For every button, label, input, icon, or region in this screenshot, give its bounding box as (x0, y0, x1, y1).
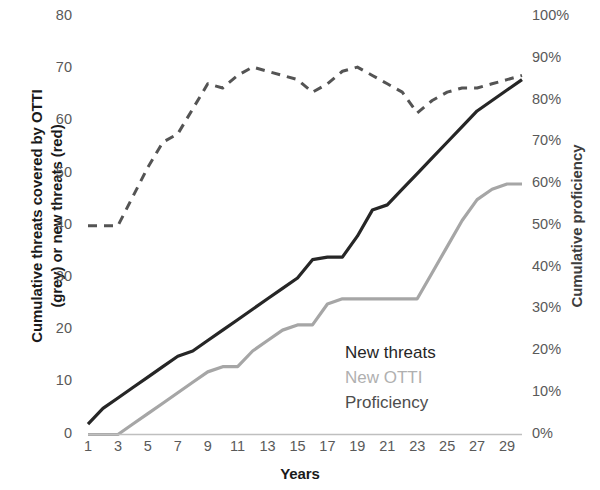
legend-item-new-otti[interactable]: New OTTI (345, 368, 422, 388)
legend-item-proficiency[interactable]: Proficiency (345, 393, 428, 413)
series-line-new-otti (88, 184, 522, 435)
series-line-new-threats (88, 80, 522, 424)
series-line-proficiency (88, 67, 522, 226)
chart-container: Cumulative threats covered by OTTI (grey… (0, 0, 600, 490)
plot-area (0, 0, 600, 490)
legend-item-new-threats[interactable]: New threats (345, 343, 436, 363)
